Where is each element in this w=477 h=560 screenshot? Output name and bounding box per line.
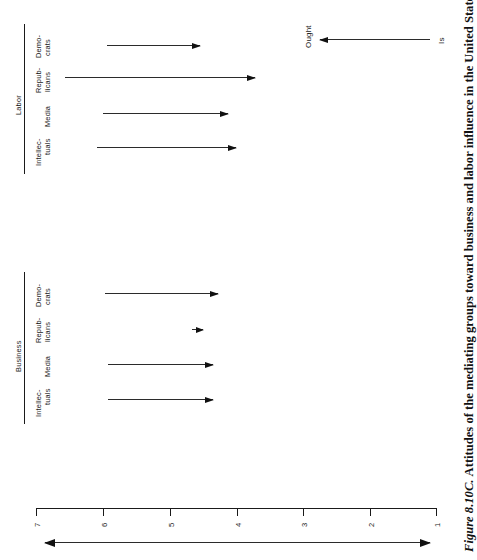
business-arrow-media <box>108 364 213 365</box>
labor-group-label-democrats-line2: crats <box>44 39 52 56</box>
business-panel-bracket <box>24 272 25 424</box>
axis-ticklabel-1: 1 <box>433 523 442 527</box>
business-group-label-media: Media <box>44 356 53 377</box>
business-panel-title: Business <box>15 340 24 372</box>
axis-tick-6 <box>103 508 104 516</box>
business-arrow-intellectuals <box>108 399 213 400</box>
labor-arrow-republicans <box>65 77 255 78</box>
axis-tick-5 <box>170 508 171 516</box>
axis-ticklabel-3: 3 <box>300 523 309 527</box>
legend-label-is: Is <box>438 37 447 44</box>
axis-tick-4 <box>237 508 238 516</box>
labor-group-label-intellectuals-line2: tuals <box>44 138 52 155</box>
business-group-label-democrats-line2: crats <box>44 288 52 305</box>
axis-tick-1 <box>436 508 437 516</box>
business-arrow-democrats <box>105 293 218 294</box>
axis-ticklabel-5: 5 <box>167 523 176 527</box>
axis-ticklabel-7: 7 <box>33 523 42 527</box>
figure-number: Figure 8.10C. <box>462 480 476 552</box>
legend-label-ought: Ought <box>305 25 314 48</box>
axis-direction-arrow <box>45 542 430 543</box>
figure-caption: Figure 8.10C. Attitudes of the mediating… <box>462 0 477 552</box>
axis-tick-3 <box>303 508 304 516</box>
labor-panel-title: Labor <box>15 95 24 115</box>
labor-panel-bracket <box>24 24 25 174</box>
labor-group-label-republicans-line2: licans <box>44 72 52 92</box>
axis-ticklabel-2: 2 <box>367 523 376 527</box>
axis-tick-7 <box>36 508 37 516</box>
labor-group-label-media: Media <box>44 106 53 127</box>
business-group-label-intellectuals-line2: tuals <box>44 388 52 405</box>
axis-ticklabel-4: 4 <box>234 523 243 527</box>
axis-tick-2 <box>370 508 371 516</box>
labor-arrow-intellectuals <box>97 147 236 148</box>
business-group-label-republicans-line2: licans <box>44 322 52 342</box>
labor-arrow-democrats <box>107 45 200 46</box>
axis-ticklabel-6: 6 <box>100 523 109 527</box>
labor-arrow-media <box>103 113 228 114</box>
business-arrow-republicans <box>192 329 203 330</box>
figure-caption-text: Attitudes of the mediating groups toward… <box>462 0 476 476</box>
legend-arrow <box>320 39 430 40</box>
